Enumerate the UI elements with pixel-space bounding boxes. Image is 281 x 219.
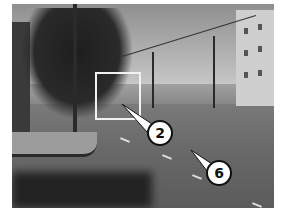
callout-2: 2: [147, 120, 173, 146]
callout-pointers: [0, 0, 281, 219]
callout-6: 6: [206, 160, 232, 186]
